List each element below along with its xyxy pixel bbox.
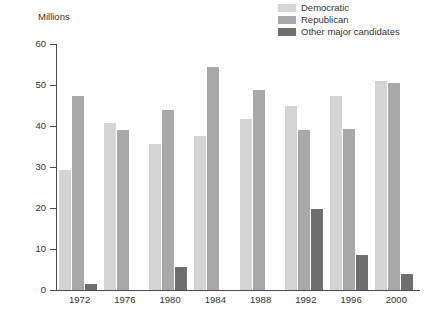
legend-item-label: Republican xyxy=(301,15,349,25)
bar xyxy=(149,144,161,290)
y-axis-tick xyxy=(50,85,57,86)
bar-group xyxy=(285,44,323,290)
y-axis-tick xyxy=(50,44,57,45)
y-axis-tick-label: 50 xyxy=(4,79,46,90)
bar xyxy=(72,96,84,290)
x-axis-tick-label: 1980 xyxy=(148,294,193,305)
bar xyxy=(194,136,206,290)
x-axis-tick-label: 1988 xyxy=(238,294,283,305)
bar xyxy=(117,130,129,290)
y-axis-tick xyxy=(50,290,57,291)
legend-swatch-icon xyxy=(278,28,296,36)
legend-item-label: Democratic xyxy=(301,3,349,13)
x-axis-tick-label: 1984 xyxy=(193,294,238,305)
plot-area xyxy=(57,44,419,290)
y-axis-tick xyxy=(50,167,57,168)
chart-legend: DemocraticRepublicanOther major candidat… xyxy=(278,2,426,38)
x-axis-line xyxy=(56,290,420,291)
bar-group xyxy=(375,44,413,290)
bar xyxy=(207,67,219,290)
y-axis-tick-label: 0 xyxy=(4,284,46,295)
x-axis-tick-label: 1972 xyxy=(57,294,102,305)
bar xyxy=(298,130,310,290)
x-axis-tick-label: 1996 xyxy=(329,294,374,305)
y-axis-tick xyxy=(50,208,57,209)
bar xyxy=(175,267,187,290)
y-axis-tick xyxy=(50,126,57,127)
bar-group xyxy=(104,44,142,290)
bar xyxy=(343,129,355,290)
legend-item: Democratic xyxy=(278,2,426,13)
bar xyxy=(59,170,71,290)
bar-group xyxy=(330,44,368,290)
y-axis-tick-label: 20 xyxy=(4,202,46,213)
bar-group xyxy=(149,44,187,290)
bar xyxy=(311,209,323,290)
y-axis-tick-label: 40 xyxy=(4,120,46,131)
bar xyxy=(375,81,387,290)
legend-item: Other major candidates xyxy=(278,26,426,37)
bar xyxy=(85,284,97,290)
bar xyxy=(285,106,297,290)
legend-swatch-icon xyxy=(278,16,296,24)
bar xyxy=(240,119,252,290)
bar xyxy=(330,96,342,290)
bar xyxy=(356,255,368,290)
bar xyxy=(253,90,265,290)
legend-item-label: Other major candidates xyxy=(301,27,400,37)
y-axis-title: Millions xyxy=(38,11,70,22)
bar xyxy=(401,274,413,290)
bar xyxy=(104,123,116,290)
x-axis-tick-label: 1992 xyxy=(283,294,328,305)
bar-chart: DemocraticRepublicanOther major candidat… xyxy=(0,0,427,314)
x-axis-tick-label: 2000 xyxy=(374,294,419,305)
x-axis-tick-label: 1976 xyxy=(102,294,147,305)
y-axis-tick-label: 30 xyxy=(4,161,46,172)
bar-group xyxy=(240,44,278,290)
y-axis-tick-label: 10 xyxy=(4,243,46,254)
legend-item: Republican xyxy=(278,14,426,25)
legend-swatch-icon xyxy=(278,4,296,12)
bar xyxy=(162,110,174,290)
bar-group xyxy=(59,44,97,290)
y-axis-tick xyxy=(50,249,57,250)
bar xyxy=(388,83,400,290)
y-axis-tick-label: 60 xyxy=(4,38,46,49)
bar-group xyxy=(194,44,232,290)
